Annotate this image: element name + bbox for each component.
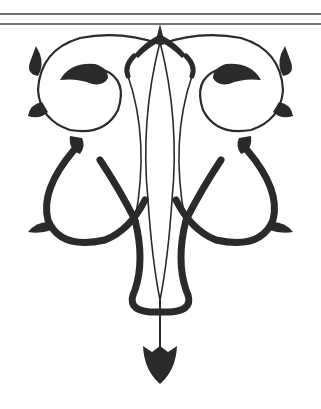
- ornament-illustration: [0, 0, 321, 409]
- double-rule: [0, 14, 321, 24]
- arabesque-ornament: [0, 0, 321, 409]
- top-crest: [127, 24, 193, 76]
- lower-right-loop: [161, 150, 293, 312]
